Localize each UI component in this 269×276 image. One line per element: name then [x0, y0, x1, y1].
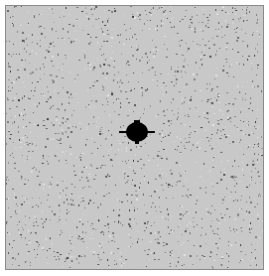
speckle-noise-field — [6, 6, 263, 269]
image-frame — [5, 5, 264, 270]
